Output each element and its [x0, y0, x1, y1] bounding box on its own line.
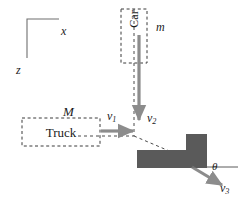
v2-subscript: 2 [152, 117, 156, 126]
v3-label: v3 [220, 182, 229, 196]
wreckage-shape [137, 134, 207, 168]
wreckage-polygon [137, 134, 207, 168]
car-mass-label: m [156, 21, 165, 33]
car-body-label: Car [128, 0, 140, 42]
v3-arrow [192, 167, 222, 185]
truck-mass-label: M [63, 105, 74, 118]
collision-diagram: x z m M Car Truck v1 v2 v3 θ [0, 0, 242, 206]
coordinate-axes [27, 19, 59, 58]
v1-label: v1 [107, 110, 116, 124]
truck-body-label: Truck [30, 126, 92, 139]
v2-label: v2 [147, 112, 156, 126]
angle-label-theta: θ [212, 161, 217, 172]
axis-label-x: x [61, 25, 66, 37]
v3-subscript: 3 [225, 187, 229, 196]
diagram-canvas [0, 0, 242, 206]
axis-corner-line [27, 19, 59, 58]
axis-label-z: z [16, 64, 21, 76]
v1-subscript: 1 [112, 115, 116, 124]
